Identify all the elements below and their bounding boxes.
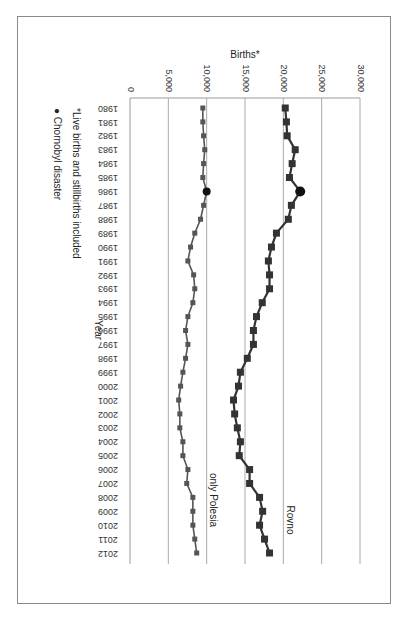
x-tick-label: 1980	[98, 104, 118, 114]
data-point-marker	[285, 216, 292, 223]
x-tick-label: 1989	[98, 229, 118, 239]
series-label-rovno: Rovno	[285, 506, 296, 535]
series-label-polesia: only Polesia	[208, 473, 219, 527]
x-tick-label: 1986	[98, 187, 118, 197]
data-point-marker	[183, 356, 188, 361]
chornobyl-marker	[295, 186, 305, 196]
chornobyl-legend-text: ● Chornobyl disaster	[52, 108, 63, 201]
data-point-marker	[259, 299, 266, 306]
y-tick-label: 10,000	[202, 64, 212, 92]
data-point-marker	[253, 313, 260, 320]
x-tick-label: 2004	[98, 437, 118, 447]
line-chart: 05,00010,00015,00020,00025,00030,0001980…	[0, 0, 405, 619]
figure-caption	[18, 608, 388, 616]
y-tick-label: 25,000	[317, 64, 327, 92]
x-tick-label: 1982	[98, 131, 118, 141]
data-point-marker	[192, 537, 197, 542]
y-tick-label: 30,000	[356, 64, 366, 92]
data-point-marker	[246, 466, 253, 473]
x-tick-label: 2007	[98, 479, 118, 489]
data-point-marker	[250, 341, 257, 348]
x-tick-label: 2002	[98, 410, 118, 420]
data-point-marker	[261, 536, 268, 543]
data-point-marker	[202, 147, 207, 152]
x-tick-label: 1987	[98, 201, 118, 211]
data-point-marker	[200, 119, 205, 124]
data-point-marker	[284, 132, 291, 139]
data-point-marker	[192, 231, 197, 236]
data-point-marker	[192, 286, 197, 291]
data-point-marker	[250, 327, 257, 334]
x-tick-label: 2011	[98, 535, 117, 545]
data-point-marker	[256, 522, 263, 529]
data-point-marker	[283, 118, 290, 125]
data-point-marker	[188, 245, 193, 250]
x-tick-label: 1992	[98, 271, 118, 281]
data-point-marker	[200, 175, 205, 180]
data-point-marker	[259, 508, 266, 515]
data-point-marker	[185, 314, 190, 319]
data-point-marker	[256, 494, 263, 501]
data-point-marker	[289, 160, 296, 167]
data-point-marker	[266, 271, 273, 278]
data-point-marker	[180, 370, 185, 375]
x-tick-label: 1993	[98, 284, 118, 294]
data-point-marker	[244, 355, 251, 362]
x-tick-label: 1988	[98, 215, 118, 225]
data-point-marker	[292, 146, 299, 153]
data-point-marker	[266, 285, 273, 292]
series-line-1	[179, 108, 207, 553]
data-point-marker	[178, 384, 183, 389]
x-tick-label: 1991	[98, 257, 118, 267]
x-tick-label: 1981	[98, 118, 118, 128]
x-tick-label: 2012	[98, 549, 118, 559]
data-point-marker	[230, 397, 237, 404]
x-tick-label: 2006	[98, 465, 118, 475]
x-tick-label: 1990	[98, 243, 118, 253]
data-point-marker	[176, 398, 181, 403]
x-tick-label: 2010	[98, 521, 118, 531]
data-point-marker	[286, 174, 293, 181]
data-point-marker	[268, 244, 275, 251]
data-point-marker	[201, 133, 206, 138]
footnote-text: *Live births and stillbirths included	[71, 108, 82, 259]
data-point-marker	[265, 257, 272, 264]
data-point-marker	[180, 453, 185, 458]
y-tick-label: 5,000	[164, 69, 174, 92]
y-axis-title: Births*	[230, 49, 260, 60]
data-point-marker	[183, 328, 188, 333]
data-point-marker	[231, 410, 238, 417]
data-point-marker	[282, 105, 289, 112]
y-tick-label: 15,000	[241, 64, 251, 92]
data-point-marker	[177, 425, 182, 430]
data-point-marker	[190, 495, 195, 500]
x-tick-label: 2009	[98, 507, 118, 517]
x-tick-label: 2005	[98, 451, 118, 461]
data-point-marker	[266, 550, 273, 557]
data-point-marker	[201, 161, 206, 166]
x-tick-label: 2003	[98, 423, 118, 433]
x-tick-label: 2001	[98, 396, 118, 406]
data-point-marker	[201, 203, 206, 208]
data-point-marker	[288, 202, 295, 209]
data-point-marker	[194, 551, 199, 556]
data-point-marker	[190, 523, 195, 528]
x-tick-label: 1997	[98, 340, 118, 350]
data-point-marker	[184, 481, 189, 486]
data-point-marker	[185, 342, 190, 347]
data-point-marker	[234, 424, 241, 431]
data-point-marker	[237, 438, 244, 445]
chornobyl-marker	[203, 187, 211, 195]
data-point-marker	[180, 439, 185, 444]
data-point-marker	[190, 509, 195, 514]
data-point-marker	[236, 452, 243, 459]
x-tick-label: 1985	[98, 173, 118, 183]
y-tick-label: 0	[126, 87, 136, 92]
x-axis-title: Year	[93, 320, 104, 341]
data-point-marker	[177, 411, 182, 416]
x-tick-label: 2008	[98, 493, 118, 503]
y-tick-label: 20,000	[279, 64, 289, 92]
data-point-marker	[200, 106, 205, 111]
data-point-marker	[198, 217, 203, 222]
x-tick-label: 1994	[98, 298, 118, 308]
